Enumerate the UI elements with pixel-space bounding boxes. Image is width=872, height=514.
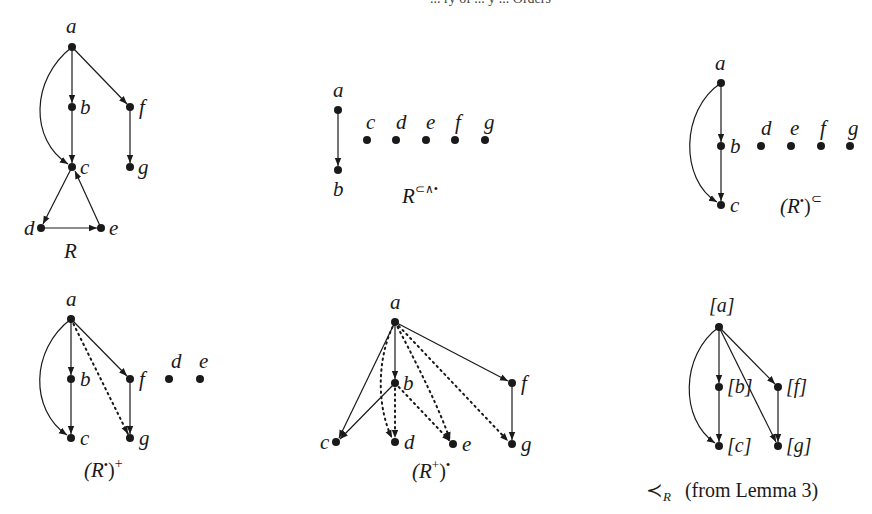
node-b — [717, 142, 725, 150]
label-a: a — [66, 14, 77, 38]
label-e: e — [790, 116, 799, 140]
node-a — [68, 43, 76, 51]
panel-r-subset-wedge-bullet: a b c d e f g R⊂∧• — [333, 78, 495, 208]
node-d — [37, 224, 45, 232]
node-f — [774, 383, 782, 391]
label-c: c — [730, 193, 740, 217]
edge-a-c — [40, 319, 71, 435]
node-g — [126, 163, 134, 171]
node-a — [715, 323, 723, 331]
label-b: [b] — [727, 375, 753, 397]
label-a: a — [390, 290, 401, 314]
label-g: [g] — [786, 434, 812, 457]
label-e: e — [426, 110, 435, 134]
edge-e-c — [75, 171, 101, 228]
label-g: g — [138, 155, 149, 179]
label-d: d — [24, 216, 35, 240]
label-g: g — [848, 116, 859, 140]
caption-r-plus-bullet: (R+)• — [412, 457, 450, 483]
node-c — [67, 434, 75, 442]
node-c — [332, 438, 340, 446]
label-c: c — [366, 110, 376, 134]
label-f: f — [820, 116, 829, 140]
caption-r-bullet-subset: (R•)⊂ — [780, 191, 822, 218]
caption-r-bullet-plus: (R•)+ — [84, 456, 123, 482]
edge-a-c — [339, 322, 395, 438]
node-a — [67, 315, 75, 323]
node-e — [787, 142, 795, 150]
node-d — [392, 136, 400, 144]
node-a — [717, 79, 725, 87]
label-g: g — [521, 432, 532, 456]
edge-b-c — [340, 383, 395, 439]
node-b — [715, 383, 723, 391]
label-a: a — [715, 51, 726, 75]
label-e: e — [462, 432, 471, 456]
label-f: [f] — [786, 375, 807, 398]
node-b — [67, 375, 75, 383]
node-g — [508, 440, 516, 448]
label-f: f — [521, 371, 530, 395]
label-a: a — [333, 78, 344, 102]
node-e — [422, 136, 430, 144]
node-g — [481, 136, 489, 144]
edge-a-c — [689, 327, 719, 443]
node-c — [363, 136, 371, 144]
label-a: [a] — [709, 294, 735, 316]
label-c: c — [80, 426, 90, 450]
node-e — [449, 440, 457, 448]
label-b: b — [333, 177, 344, 201]
label-f: f — [455, 110, 464, 134]
label-d: d — [761, 116, 772, 140]
label-c: c — [80, 155, 90, 179]
node-f — [126, 103, 134, 111]
node-c — [715, 442, 723, 450]
panel-prec-r: [a] [b] [f] [c] [g] ≺R(from Lemma 3) — [646, 294, 818, 504]
node-f — [817, 142, 825, 150]
node-g — [126, 434, 134, 442]
node-f — [451, 136, 459, 144]
relation-graphs-figure: a b f c g d e R a b c d e f g R⊂∧• — [0, 0, 872, 514]
node-e — [97, 224, 105, 232]
label-e: e — [109, 216, 118, 240]
panel-r-bullet-subset: a b c d e f g (R•)⊂ — [690, 51, 859, 218]
node-g — [774, 442, 782, 450]
label-c: c — [320, 430, 330, 454]
node-b — [334, 166, 342, 174]
label-a: a — [66, 287, 77, 311]
node-d — [391, 438, 399, 446]
label-f: f — [139, 95, 148, 119]
caption-r: R — [63, 239, 77, 263]
node-c — [717, 201, 725, 209]
label-f: f — [139, 367, 148, 391]
node-a — [334, 106, 342, 114]
label-b: b — [80, 95, 91, 119]
label-e: e — [199, 349, 208, 373]
caption-r-subset-wedge-bullet: R⊂∧• — [401, 182, 438, 208]
node-g — [846, 142, 854, 150]
panel-r: a b f c g d e R — [24, 14, 149, 263]
label-g: g — [484, 110, 495, 134]
node-f — [126, 375, 134, 383]
node-c — [68, 163, 76, 171]
panel-r-plus-bullet: a b c d e f g (R+)• — [320, 290, 532, 483]
label-d: d — [396, 110, 407, 134]
label-b: b — [730, 134, 741, 158]
edge-c-d — [43, 167, 72, 224]
label-d: d — [171, 349, 182, 373]
node-f — [508, 379, 516, 387]
node-e — [196, 375, 204, 383]
edge-a-c — [690, 83, 721, 202]
edge-a-c — [40, 47, 72, 164]
node-b — [68, 103, 76, 111]
node-b — [391, 379, 399, 387]
caption-prec-r: ≺R(from Lemma 3) — [646, 479, 818, 504]
label-b: b — [80, 367, 91, 391]
node-a — [391, 318, 399, 326]
label-c: [c] — [727, 434, 751, 456]
label-d: d — [404, 430, 415, 454]
label-g: g — [139, 426, 150, 450]
node-d — [165, 375, 173, 383]
panel-r-bullet-plus: a b c f g d e (R•)+ — [40, 287, 209, 482]
node-d — [757, 142, 765, 150]
